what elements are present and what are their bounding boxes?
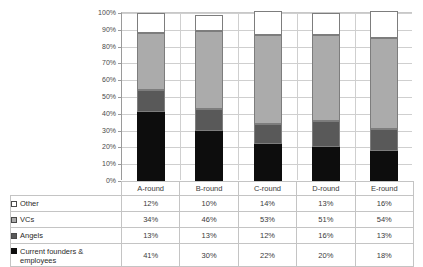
table-value-cell: 16%: [355, 196, 413, 212]
y-axis-tick-label: 10%: [86, 160, 116, 167]
bar-segment[interactable]: [137, 112, 165, 181]
table-value-cell: 16%: [297, 228, 355, 244]
table-value-cell: 30%: [180, 244, 238, 267]
bar-segment[interactable]: [254, 124, 282, 144]
white-square-icon: [11, 201, 17, 207]
column-header-1: A-round: [122, 182, 180, 196]
table-value-cell: 51%: [297, 212, 355, 228]
legend-label: VCs: [20, 215, 34, 224]
bar-segment[interactable]: [195, 131, 223, 181]
bar-column[interactable]: [137, 13, 165, 180]
bar-segment[interactable]: [195, 109, 223, 131]
y-axis-tick-label: 50%: [86, 93, 116, 100]
legend-cell: Current founders &employees: [11, 244, 122, 267]
table-value-cell: 34%: [122, 212, 180, 228]
dark-gray-square-icon: [11, 233, 17, 239]
table-row: Current founders &employees41%30%22%20%1…: [11, 244, 414, 267]
table-value-cell: 13%: [180, 228, 238, 244]
table-value-cell: 13%: [297, 196, 355, 212]
bar-column[interactable]: [370, 13, 398, 180]
y-axis-tick-label: 100%: [86, 9, 116, 16]
table-value-cell: 18%: [355, 244, 413, 267]
bars-layer: [122, 13, 412, 180]
data-table: A-roundB-roundC-roundD-roundE-round Othe…: [10, 181, 414, 267]
bar-column[interactable]: [195, 13, 223, 180]
y-axis-tick-label: 40%: [86, 109, 116, 116]
table-row: VCs34%46%53%51%54%: [11, 212, 414, 228]
legend-cell: Other: [11, 196, 122, 212]
table-value-cell: 20%: [297, 244, 355, 267]
bar-segment[interactable]: [254, 144, 282, 181]
bar-segment[interactable]: [195, 15, 223, 32]
table-header-row: A-roundB-roundC-roundD-roundE-round: [11, 182, 414, 196]
light-gray-square-icon: [11, 217, 17, 223]
table-value-cell: 12%: [122, 196, 180, 212]
y-axis-tick-label: 30%: [86, 126, 116, 133]
table-row: Other12%10%14%13%16%: [11, 196, 414, 212]
table-value-cell: 13%: [122, 228, 180, 244]
column-header-2: B-round: [180, 182, 238, 196]
bar-segment[interactable]: [254, 35, 282, 124]
bar-segment[interactable]: [137, 33, 165, 90]
legend-label: Angels: [20, 231, 43, 240]
table-value-cell: 46%: [180, 212, 238, 228]
bar-segment[interactable]: [370, 38, 398, 129]
column-header-3: C-round: [238, 182, 296, 196]
y-axis-tick-label: 90%: [86, 25, 116, 32]
table-header: A-roundB-roundC-roundD-roundE-round: [11, 182, 414, 196]
column-header-5: E-round: [355, 182, 413, 196]
table-value-cell: 41%: [122, 244, 180, 267]
y-axis-tick-label: 60%: [86, 76, 116, 83]
bar-segment[interactable]: [137, 13, 165, 33]
table-corner-cell: [11, 182, 122, 196]
bar-column[interactable]: [254, 13, 282, 180]
y-axis-tick-label: 80%: [86, 42, 116, 49]
table-value-cell: 53%: [238, 212, 296, 228]
table-value-cell: 54%: [355, 212, 413, 228]
table-row: Angels13%13%12%16%13%: [11, 228, 414, 244]
bar-segment[interactable]: [370, 11, 398, 38]
y-axis-tick-label: 20%: [86, 143, 116, 150]
legend-label: Other: [20, 199, 39, 208]
column-header-4: D-round: [297, 182, 355, 196]
table-value-cell: 10%: [180, 196, 238, 212]
black-square-icon: [11, 248, 17, 254]
stacked-bar-chart: 100%90%80%70%60%50%40%30%20%10%0%: [0, 0, 423, 185]
table-value-cell: 22%: [238, 244, 296, 267]
legend-cell: Angels: [11, 228, 122, 244]
bar-segment[interactable]: [137, 90, 165, 112]
bar-segment[interactable]: [370, 151, 398, 181]
bar-column[interactable]: [312, 13, 340, 180]
legend-label: Current founders &employees: [20, 247, 83, 265]
bar-segment[interactable]: [312, 13, 340, 35]
bar-segment[interactable]: [312, 35, 340, 121]
bar-segment[interactable]: [254, 11, 282, 35]
bar-segment[interactable]: [312, 147, 340, 181]
bar-segment[interactable]: [312, 121, 340, 148]
y-axis: 100%90%80%70%60%50%40%30%20%10%0%: [86, 12, 116, 180]
bar-segment[interactable]: [195, 31, 223, 108]
table-body: Other12%10%14%13%16%VCs34%46%53%51%54%An…: [11, 196, 414, 267]
table-value-cell: 13%: [355, 228, 413, 244]
table-value-cell: 12%: [238, 228, 296, 244]
y-axis-tick-label: 70%: [86, 59, 116, 66]
table-value-cell: 14%: [238, 196, 296, 212]
plot-area: [121, 12, 412, 180]
legend-cell: VCs: [11, 212, 122, 228]
bar-segment[interactable]: [370, 129, 398, 151]
